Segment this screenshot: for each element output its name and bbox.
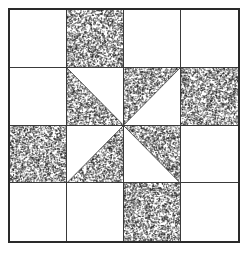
- patch-r4c4: [181, 183, 238, 241]
- quilt-figure: [0, 0, 248, 254]
- patch-r1c2: [67, 10, 124, 68]
- stipple-texture: [124, 183, 181, 241]
- stipple-texture: [10, 126, 67, 184]
- patch-r3c1: [10, 126, 67, 184]
- stipple-texture: [67, 126, 124, 184]
- patch-r3c3: [124, 126, 181, 184]
- patch-r1c1: [10, 10, 67, 68]
- stipple-texture: [67, 10, 124, 68]
- patch-r2c3: [124, 68, 181, 126]
- stipple-texture: [67, 68, 124, 126]
- patch-r2c2: [67, 68, 124, 126]
- patch-r3c2: [67, 126, 124, 184]
- stipple-texture: [124, 126, 181, 184]
- patch-r4c1: [10, 183, 67, 241]
- patch-r2c1: [10, 68, 67, 126]
- quilt-grid: [10, 10, 238, 241]
- patch-r4c3: [124, 183, 181, 241]
- patch-r1c4: [181, 10, 238, 68]
- quilt-block-border: [8, 8, 240, 243]
- patch-r1c3: [124, 10, 181, 68]
- stipple-texture: [181, 68, 238, 126]
- stipple-texture: [124, 68, 181, 126]
- patch-r3c4: [181, 126, 238, 184]
- patch-r2c4: [181, 68, 238, 126]
- patch-r4c2: [67, 183, 124, 241]
